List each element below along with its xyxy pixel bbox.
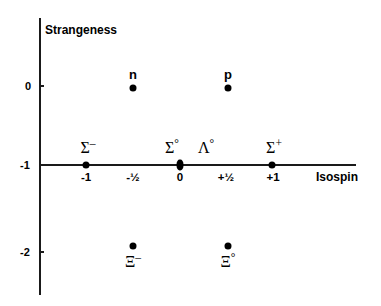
particle-label-sigma-plus: Σ+ bbox=[266, 140, 282, 156]
particle-label-neutron: n bbox=[129, 68, 137, 81]
x-tick-label-plus-half: +½ bbox=[218, 171, 234, 183]
x-tick-label-minus1: -1 bbox=[81, 171, 91, 183]
data-point-xi-minus bbox=[130, 243, 137, 250]
data-point-neutron bbox=[130, 85, 137, 92]
baryon-octet-weight-diagram: Strangeness Isospin 0 -1 -2 -1 -½ 0 +½ +… bbox=[0, 0, 381, 306]
lambda-zero-superscript: ° bbox=[210, 137, 215, 149]
x-tick-label-minus-half: -½ bbox=[126, 171, 139, 183]
data-point-sigma-plus bbox=[269, 162, 276, 169]
sigma-minus-superscript: – bbox=[90, 137, 96, 149]
xi-zero-superscript: ° bbox=[231, 251, 236, 263]
particle-label-sigma-minus: Σ– bbox=[80, 140, 95, 156]
x-axis-title: Isospin bbox=[316, 170, 358, 184]
y-tick-mark-0 bbox=[39, 85, 44, 87]
y-tick-mark-minus1 bbox=[39, 164, 44, 166]
sigma-zero-symbol: Σ bbox=[165, 139, 174, 156]
particle-label-sigma-zero: Σ° bbox=[165, 140, 179, 156]
particle-label-lambda-zero: Λ° bbox=[198, 140, 214, 156]
x-tick-label-0: 0 bbox=[177, 171, 183, 183]
data-point-sigma-minus bbox=[83, 162, 90, 169]
particle-label-xi-zero: Ξ° bbox=[221, 254, 236, 270]
neutron-symbol: n bbox=[129, 67, 137, 82]
data-point-sigma-lambda-zero bbox=[177, 160, 184, 171]
y-tick-label-0: 0 bbox=[25, 80, 31, 92]
y-axis-line bbox=[39, 18, 41, 295]
data-point-xi-zero bbox=[225, 243, 232, 250]
particle-label-xi-minus: Ξ– bbox=[125, 254, 141, 270]
y-tick-label-minus1: -1 bbox=[20, 159, 30, 171]
sigma-zero-superscript: ° bbox=[174, 137, 179, 149]
xi-zero-symbol: Ξ bbox=[221, 253, 231, 270]
xi-minus-superscript: – bbox=[135, 251, 141, 263]
y-tick-label-minus2: -2 bbox=[20, 246, 30, 258]
xi-minus-symbol: Ξ bbox=[125, 253, 135, 270]
sigma-plus-superscript: + bbox=[275, 137, 282, 149]
proton-symbol: p bbox=[224, 67, 232, 82]
sigma-minus-symbol: Σ bbox=[80, 139, 89, 156]
data-point-proton bbox=[225, 85, 232, 92]
lambda-zero-symbol: Λ bbox=[198, 139, 210, 156]
y-axis-title: Strangeness bbox=[45, 23, 117, 37]
y-tick-mark-minus2 bbox=[39, 251, 44, 253]
sigma-plus-symbol: Σ bbox=[266, 139, 275, 156]
particle-label-proton: p bbox=[224, 68, 232, 81]
x-tick-label-plus1: +1 bbox=[266, 171, 279, 183]
